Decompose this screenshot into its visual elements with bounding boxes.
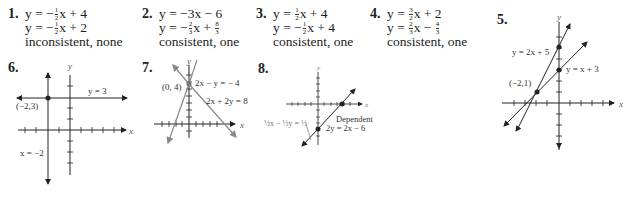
axis-x-label: x (364, 101, 369, 109)
line-label: 2y = 2x − 6 (326, 123, 365, 133)
graph-8: y x ½x − ½y = ½ Dependent 2y = 2x − 6 (0, 0, 638, 199)
axis-y-label: y (316, 64, 321, 72)
line-label: ½x − ½y = ½ (264, 119, 307, 128)
